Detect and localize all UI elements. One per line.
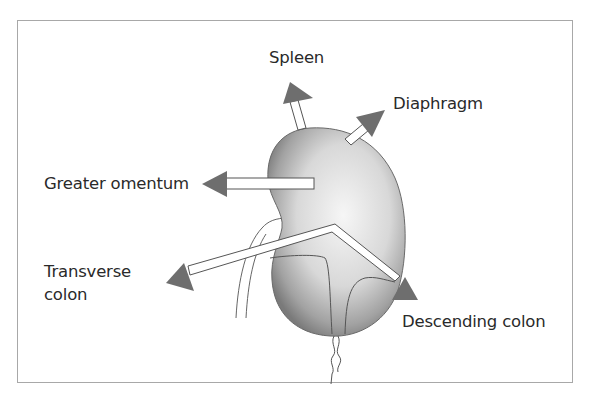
label-descending-colon: Descending colon (402, 311, 545, 333)
arrow-diaphragm (345, 110, 385, 145)
label-greater-omentum: Greater omentum (44, 173, 189, 195)
label-transverse-colon-line2: colon (44, 284, 87, 306)
label-spleen: Spleen (269, 47, 324, 69)
label-transverse-colon-line1: Transverse (44, 261, 131, 283)
arrow-spleen (283, 82, 313, 130)
label-diaphragm: Diaphragm (393, 93, 483, 115)
